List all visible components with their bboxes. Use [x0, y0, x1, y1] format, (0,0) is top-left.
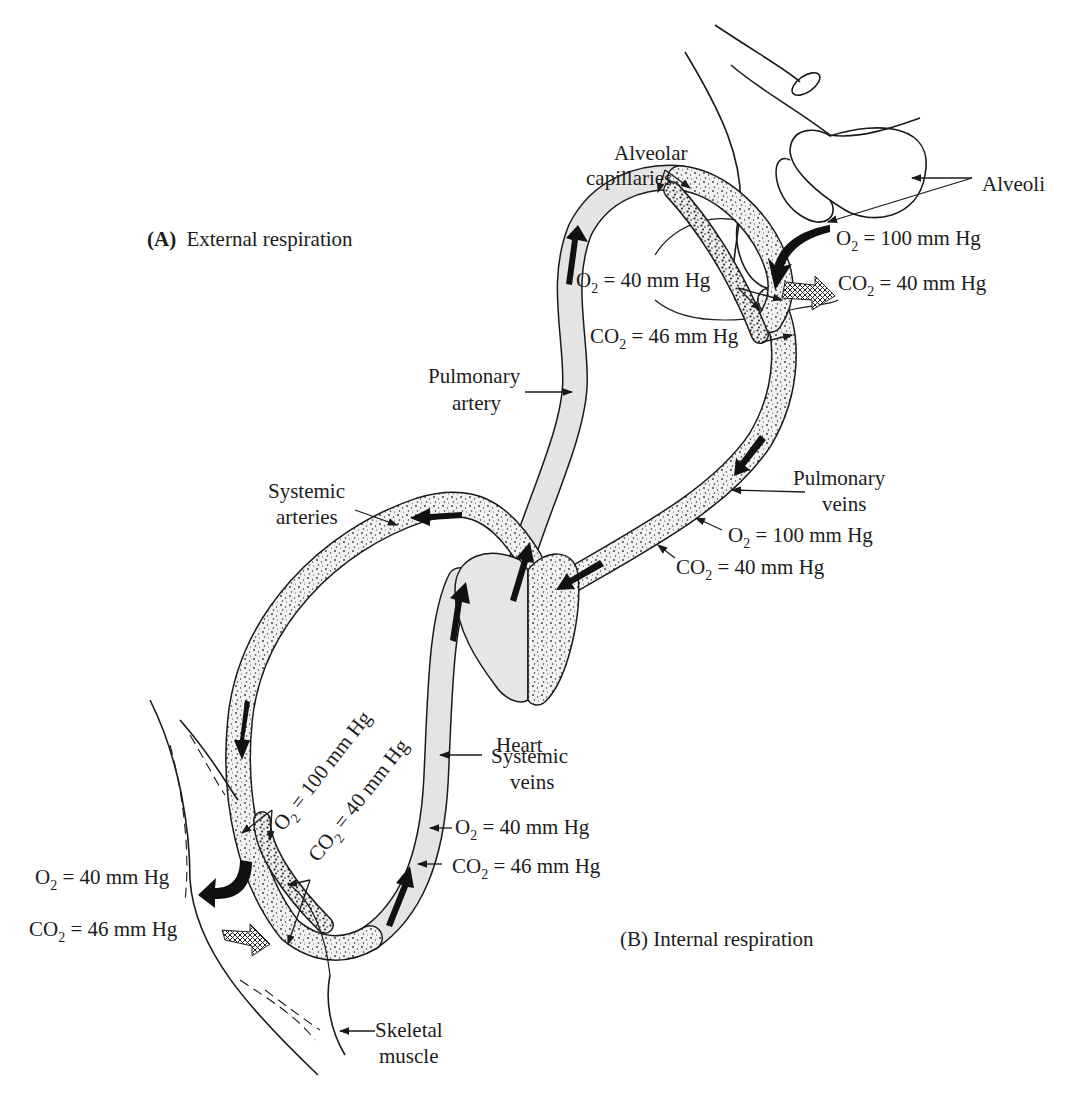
pulmonary-artery-co2-value: CO2 = 46 mm Hg: [590, 324, 739, 352]
muscle-fiber-4: [265, 990, 320, 1030]
muscle-fiber-1: [170, 745, 187, 900]
label-pulmonary-artery-line2: artery: [452, 391, 501, 415]
label-pulmonary-veins-line1: Pulmonary: [793, 466, 886, 490]
muscle-outline-bottom: [328, 975, 345, 1055]
label-skeletal-muscle-line1: Skeletal: [375, 1018, 443, 1042]
leader-pv-co2: [658, 545, 675, 558]
systemic-veins-o2-value: O2 = 40 mm Hg: [455, 815, 590, 843]
pulmonary-artery-vessel: [520, 178, 680, 565]
tissue-o2-value: O2 = 40 mm Hg: [35, 865, 170, 893]
pulmonary-artery-o2-value: O2 = 40 mm Hg: [576, 268, 711, 296]
label-skeletal-muscle-line2: muscle: [379, 1044, 438, 1068]
leader-pulmonary-veins: [732, 490, 805, 492]
section-label-external-text: External respiration: [186, 227, 353, 251]
label-alveoli: Alveoli: [982, 172, 1045, 196]
heart-left-side: [528, 554, 579, 705]
alveolus-middle: [776, 159, 833, 223]
label-pulmonary-artery-line1: Pulmonary: [428, 364, 521, 388]
label-alveolar-capillaries-line2: capillaries: [586, 166, 672, 190]
heart: [455, 553, 579, 705]
bronchiole-tube-opening: [788, 68, 823, 99]
o2-outflow-arrow-tissue: [198, 860, 252, 908]
alveoli-o2-value: O2 = 100 mm Hg: [836, 226, 981, 254]
pulmonary-veins-o2-value: O2 = 100 mm Hg: [728, 523, 873, 551]
label-systemic-arteries-line1: Systemic: [268, 479, 345, 503]
tissue-co2-value: CO2 = 46 mm Hg: [29, 917, 178, 945]
leader-alveoli-lower: [828, 178, 972, 222]
bronchiole-tube-bottom: [731, 65, 920, 136]
leader-lines: [242, 170, 972, 1031]
pulmonary-veins-co2-value: CO2 = 40 mm Hg: [676, 555, 825, 583]
label-systemic-veins-line2: veins: [510, 770, 554, 794]
section-label-internal: (B) Internal respiration: [620, 927, 814, 951]
alveolus-large: [790, 128, 926, 218]
label-pulmonary-veins-line2: veins: [822, 492, 866, 516]
heart-right-side: [455, 553, 528, 702]
label-systemic-arteries-line2: arteries: [276, 505, 338, 529]
leader-pv-o2: [696, 518, 722, 530]
co2-inflow-arrow-tissue: [222, 924, 270, 956]
bronchiole-tube-top: [715, 25, 800, 82]
alveolar-capillary-loop: [672, 178, 780, 335]
systemic-arteries-o2-value: O2 = 100 mm Hg: [268, 706, 380, 838]
label-alveolar-capillaries-line1: Alveolar: [614, 141, 687, 165]
label-systemic-veins-line1: Systemic: [491, 744, 568, 768]
muscle-fiber-2: [190, 735, 225, 795]
section-label-external: (A) External respiration: [147, 227, 353, 251]
muscle-fiber-3: [240, 980, 315, 1040]
section-label-external-prefix: (A): [147, 227, 176, 251]
systemic-veins-co2-value: CO2 = 46 mm Hg: [452, 854, 601, 882]
respiration-diagram: (A) External respiration (B) Internal re…: [0, 0, 1083, 1105]
alveoli-co2-value: CO2 = 40 mm Hg: [838, 271, 987, 299]
